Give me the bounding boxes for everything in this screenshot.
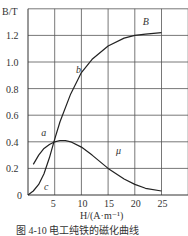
annotation-label: μ	[115, 145, 121, 156]
y-tick-label: 1.0	[6, 57, 19, 68]
y-tick-label: 0.2	[6, 163, 19, 174]
grid	[28, 9, 188, 195]
curve-annotations: Bbacμ	[41, 16, 149, 192]
x-tick-label: 10	[77, 198, 87, 209]
x-tick-label: 25	[158, 198, 168, 209]
annotation-label: b	[76, 64, 81, 75]
y-tick-label: 0.4	[6, 137, 19, 148]
y-axis-label: B/T	[2, 6, 18, 17]
x-tick-label: 5	[51, 198, 56, 209]
series-line-b	[28, 33, 162, 195]
magnetization-chart: 51015202500.20.40.60.81.01.2 Bbacμ B/T H…	[0, 0, 188, 236]
x-axis-label: H/(A·m⁻¹)	[80, 210, 123, 222]
figure-caption: 图 4-10 电工纯铁的磁化曲线	[16, 224, 139, 236]
annotation-label: a	[41, 127, 46, 138]
y-tick-label: 0	[17, 190, 22, 201]
x-tick-label: 15	[104, 198, 114, 209]
annotation-label: c	[44, 181, 49, 192]
y-tick-label: 1.2	[6, 30, 19, 41]
y-tick-label: 0.8	[6, 84, 19, 95]
series-lines	[28, 33, 162, 195]
tick-labels: 51015202500.20.40.60.81.01.2	[6, 30, 168, 209]
annotation-label: B	[143, 16, 149, 27]
y-tick-label: 0.6	[6, 110, 19, 121]
x-tick-label: 20	[131, 198, 141, 209]
